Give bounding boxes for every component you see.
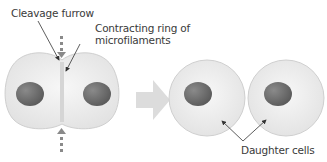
cleavage-furrow-label: Cleavage furrow [11,7,94,19]
process-arrow-icon [136,80,170,120]
daughter-cell-1 [169,60,245,136]
contracting-ring-label-line2: microfilaments [95,34,171,46]
daughter-cells-label: Daughter cells [241,144,314,156]
daughter-cell-2 [248,60,324,136]
dashed-arrow-bottom-icon [57,128,66,152]
contracting-ring-label-line1: Contracting ring of [95,22,190,34]
dividing-cell [5,53,119,129]
daughter-leader-2 [243,120,266,141]
nucleus-left [16,82,44,106]
nucleus-right [83,82,111,106]
cleavage-furrow [60,62,64,122]
dashed-arrow-top-icon [57,36,66,58]
